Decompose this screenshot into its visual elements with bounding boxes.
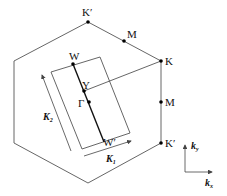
brillouin-zone-diagram: K′ M K M K′ W Y Γ W′ K2 K1 ky kx [0, 0, 227, 196]
label-k: K [165, 55, 173, 67]
point-k-prime-top [86, 20, 90, 24]
label-y: Y [82, 79, 90, 91]
label-k2: K2 [42, 111, 53, 123]
point-gamma [87, 100, 91, 104]
label-gamma: Γ [78, 97, 84, 109]
label-ky: ky [191, 140, 199, 152]
point-k [159, 59, 163, 63]
label-w: W [69, 50, 80, 62]
point-m-upper [122, 39, 126, 43]
point-m-right [159, 100, 163, 104]
label-w-prime: W′ [103, 136, 116, 148]
path-y-to-k [84, 61, 161, 91]
label-k-prime-lower: K′ [165, 137, 175, 149]
label-kx: kx [205, 177, 213, 189]
label-k-prime-top: K′ [82, 6, 92, 18]
label-m-upper: M [127, 28, 137, 40]
point-w [71, 62, 75, 66]
label-k1: K1 [105, 153, 116, 165]
point-k-prime-lower [159, 141, 163, 145]
rectangular-zone-boundary [51, 57, 130, 149]
label-m-right: M [165, 96, 175, 108]
